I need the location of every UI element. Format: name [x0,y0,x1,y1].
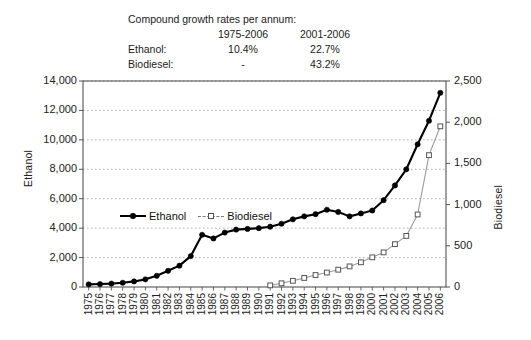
data-point-ethanol [177,263,182,268]
data-point-biodiesel [370,255,375,260]
legend-label-ethanol: Ethanol [149,210,186,222]
data-point-biodiesel [404,234,409,239]
data-point-ethanol [97,281,102,286]
data-point-ethanol [324,207,329,212]
data-point-biodiesel [427,153,432,158]
data-point-ethanol [165,268,170,273]
data-point-ethanol [268,224,273,229]
data-point-biodiesel [381,250,386,255]
data-point-ethanol [279,221,284,226]
data-point-biodiesel [359,260,364,265]
data-point-ethanol [200,232,205,237]
data-point-ethanol [211,236,216,241]
data-point-biodiesel [302,276,307,281]
chart-legend: Ethanol Biodiesel [118,210,274,222]
chart-figure: Compound growth rates per annum: 1975-20… [0,0,531,340]
data-point-ethanol [188,254,193,259]
data-point-ethanol [415,142,420,147]
data-point-ethanol [256,226,261,231]
legend-marker-biodiesel-icon [198,211,224,221]
series-line-ethanol [89,93,441,285]
data-point-ethanol [392,183,397,188]
data-point-biodiesel [290,278,295,283]
legend-item-ethanol: Ethanol [120,210,186,222]
data-point-ethanol [120,280,125,285]
data-point-ethanol [109,281,114,286]
data-point-biodiesel [313,273,318,278]
data-point-ethanol [438,90,443,95]
data-point-ethanol [370,208,375,213]
data-point-ethanol [86,282,91,287]
legend-label-biodiesel: Biodiesel [227,210,272,222]
data-point-ethanol [302,214,307,219]
data-point-ethanol [143,277,148,282]
data-point-ethanol [234,227,239,232]
data-point-ethanol [154,273,159,278]
data-point-ethanol [290,217,295,222]
data-point-ethanol [131,279,136,284]
data-point-ethanol [358,211,363,216]
data-point-biodiesel [347,264,352,269]
plot-area [0,0,531,340]
data-point-ethanol [245,226,250,231]
data-point-biodiesel [279,281,284,286]
legend-item-biodiesel: Biodiesel [198,210,272,222]
data-point-biodiesel [393,242,398,247]
data-point-ethanol [313,212,318,217]
plot-frame [83,81,446,287]
legend-marker-ethanol-icon [120,211,146,221]
data-point-ethanol [347,214,352,219]
data-point-ethanol [222,230,227,235]
data-point-biodiesel [336,267,341,272]
data-point-biodiesel [268,283,273,288]
data-point-ethanol [404,167,409,172]
data-point-biodiesel [324,270,329,275]
data-point-ethanol [381,198,386,203]
data-point-biodiesel [415,212,420,217]
data-point-biodiesel [438,124,443,129]
data-point-ethanol [426,118,431,123]
data-point-ethanol [336,209,341,214]
